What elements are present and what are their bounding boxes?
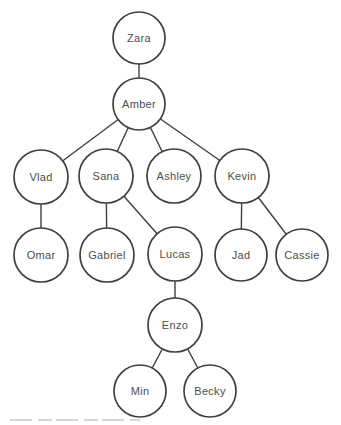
node-label-omar: Omar xyxy=(27,249,56,261)
node-cassie: Cassie xyxy=(276,229,328,281)
node-label-kevin: Kevin xyxy=(227,170,256,182)
node-enzo: Enzo xyxy=(148,298,202,352)
node-min: Min xyxy=(114,365,166,417)
node-jad: Jad xyxy=(215,229,267,281)
node-label-lucas: Lucas xyxy=(160,248,191,260)
node-label-vlad: Vlad xyxy=(29,171,52,183)
node-gabriel: Gabriel xyxy=(80,228,134,282)
node-vlad: Vlad xyxy=(14,150,68,204)
node-ashley: Ashley xyxy=(147,149,201,203)
node-label-gabriel: Gabriel xyxy=(88,249,126,261)
family-tree-diagram: ZaraAmberVladSanaAshleyKevinOmarGabrielL… xyxy=(0,0,341,425)
node-lucas: Lucas xyxy=(148,227,202,281)
node-kevin: Kevin xyxy=(215,149,269,203)
node-zara: Zara xyxy=(113,12,165,64)
node-label-enzo: Enzo xyxy=(162,319,188,331)
node-label-becky: Becky xyxy=(194,385,226,397)
node-label-sana: Sana xyxy=(93,170,120,182)
node-amber: Amber xyxy=(113,78,165,130)
node-becky: Becky xyxy=(184,365,236,417)
node-label-ashley: Ashley xyxy=(157,170,192,182)
node-label-cassie: Cassie xyxy=(284,249,319,261)
node-label-jad: Jad xyxy=(232,249,251,261)
node-label-amber: Amber xyxy=(122,98,156,110)
diagram-canvas: ZaraAmberVladSanaAshleyKevinOmarGabrielL… xyxy=(0,0,341,425)
node-label-zara: Zara xyxy=(127,32,151,44)
node-sana: Sana xyxy=(79,149,133,203)
node-omar: Omar xyxy=(14,228,68,282)
node-label-min: Min xyxy=(131,385,150,397)
